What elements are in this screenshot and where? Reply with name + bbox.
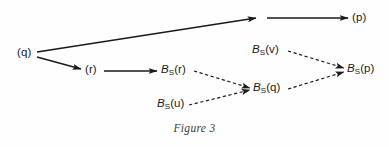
node-p-label: (p) [352,11,366,23]
node-bs-u-base: B [157,97,165,109]
node-r-label: (r) [85,63,97,75]
node-q-label: (q) [17,46,31,58]
node-bs-v-arg: (v) [265,43,279,55]
node-bs-p-arg: (p) [360,62,374,74]
node-bs-q-base: B [253,81,261,93]
node-bs-q: BS(q) [253,82,280,95]
node-bs-v-base: B [252,43,260,55]
node-bs-v: BS(v) [252,44,279,57]
edge-bsq-to-bsp [288,72,344,89]
edge-q-to-r [37,57,81,69]
node-bs-q-arg: (q) [266,81,280,93]
node-p: (p) [352,12,366,24]
node-r: (r) [85,64,97,76]
node-bs-r-arg: (r) [174,63,186,75]
edge-bsr-to-bsq [194,71,250,88]
node-q: (q) [17,47,31,59]
node-bs-p-base: B [347,62,355,74]
node-bs-p: BS(p) [347,63,374,76]
node-bs-r-base: B [161,63,169,75]
edge-bsv-to-bsp [288,51,344,68]
node-bs-r: BS(r) [161,64,186,77]
figure-3-diagram: (q) (r) (p) BS(r) BS(u) BS(v) BS(q) BS(p… [0,0,389,147]
node-bs-u: BS(u) [157,98,184,111]
figure-caption: Figure 3 [0,122,389,134]
edge-q-to-top [37,18,256,52]
edge-bsu-to-bsq [189,90,250,105]
node-bs-u-arg: (u) [170,97,184,109]
